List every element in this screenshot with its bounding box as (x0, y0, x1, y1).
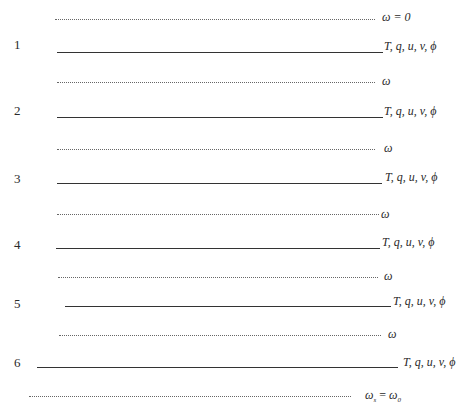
layer-variables-3: T, q, u, v, ϕ (385, 170, 437, 185)
layer-variables-5: T, q, u, v, ϕ (393, 294, 445, 309)
top-boundary-line (55, 19, 375, 20)
layer-line-3 (57, 183, 382, 184)
layer-line-2 (57, 117, 383, 118)
layer-line-5 (65, 306, 391, 307)
layer-number-4: 4 (14, 237, 21, 253)
reference-subscript: 0 (397, 396, 401, 404)
top-boundary-label: ω = 0 (382, 10, 411, 25)
interface-label-1: ω (382, 74, 390, 89)
layer-number-3: 3 (14, 171, 21, 187)
bottom-boundary-label: ωs = ω0 (365, 388, 401, 404)
interface-line-2 (57, 149, 375, 150)
interface-line-5 (59, 335, 381, 336)
layer-variables-6: T, q, u, v, ϕ (403, 355, 455, 370)
layer-variables-2: T, q, u, v, ϕ (384, 104, 436, 119)
interface-line-4 (58, 277, 378, 278)
interface-label-3: ω (381, 207, 389, 222)
layer-line-6 (37, 367, 398, 368)
interface-label-5: ω (388, 327, 396, 342)
interface-line-1 (57, 82, 375, 83)
interface-label-4: ω (384, 269, 392, 284)
equals-sign: = (376, 388, 389, 402)
interface-line-3 (57, 214, 379, 215)
layer-number-5: 5 (14, 296, 21, 312)
bottom-boundary-line (29, 396, 351, 397)
layer-number-2: 2 (14, 103, 21, 119)
layer-number-6: 6 (14, 355, 21, 371)
layer-line-1 (57, 52, 383, 53)
layer-line-4 (56, 248, 380, 249)
interface-label-2: ω (384, 141, 392, 156)
layer-variables-4: T, q, u, v, ϕ (382, 235, 434, 250)
layer-variables-1: T, q, u, v, ϕ (384, 39, 436, 54)
layer-number-1: 1 (14, 37, 21, 53)
